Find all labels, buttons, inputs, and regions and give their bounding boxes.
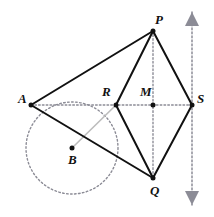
point-Q	[151, 176, 156, 181]
label-S: S	[197, 92, 204, 105]
segment-P-S	[153, 31, 192, 105]
label-A: A	[18, 92, 27, 105]
geometry-figure: ARMSPQB	[0, 0, 214, 217]
point-B	[70, 146, 75, 151]
label-M: M	[140, 85, 152, 98]
point-P	[151, 29, 156, 34]
diagram-canvas	[0, 0, 214, 217]
arrowhead-up-icon	[185, 12, 199, 26]
label-B: B	[68, 153, 77, 166]
segment-S-Q	[153, 105, 192, 178]
point-A	[29, 103, 34, 108]
point-R	[114, 103, 119, 108]
label-Q: Q	[150, 184, 159, 197]
point-M	[151, 103, 156, 108]
arrowhead-down-icon	[185, 191, 199, 205]
label-R: R	[102, 85, 111, 98]
point-S	[190, 103, 195, 108]
label-P: P	[155, 13, 163, 26]
